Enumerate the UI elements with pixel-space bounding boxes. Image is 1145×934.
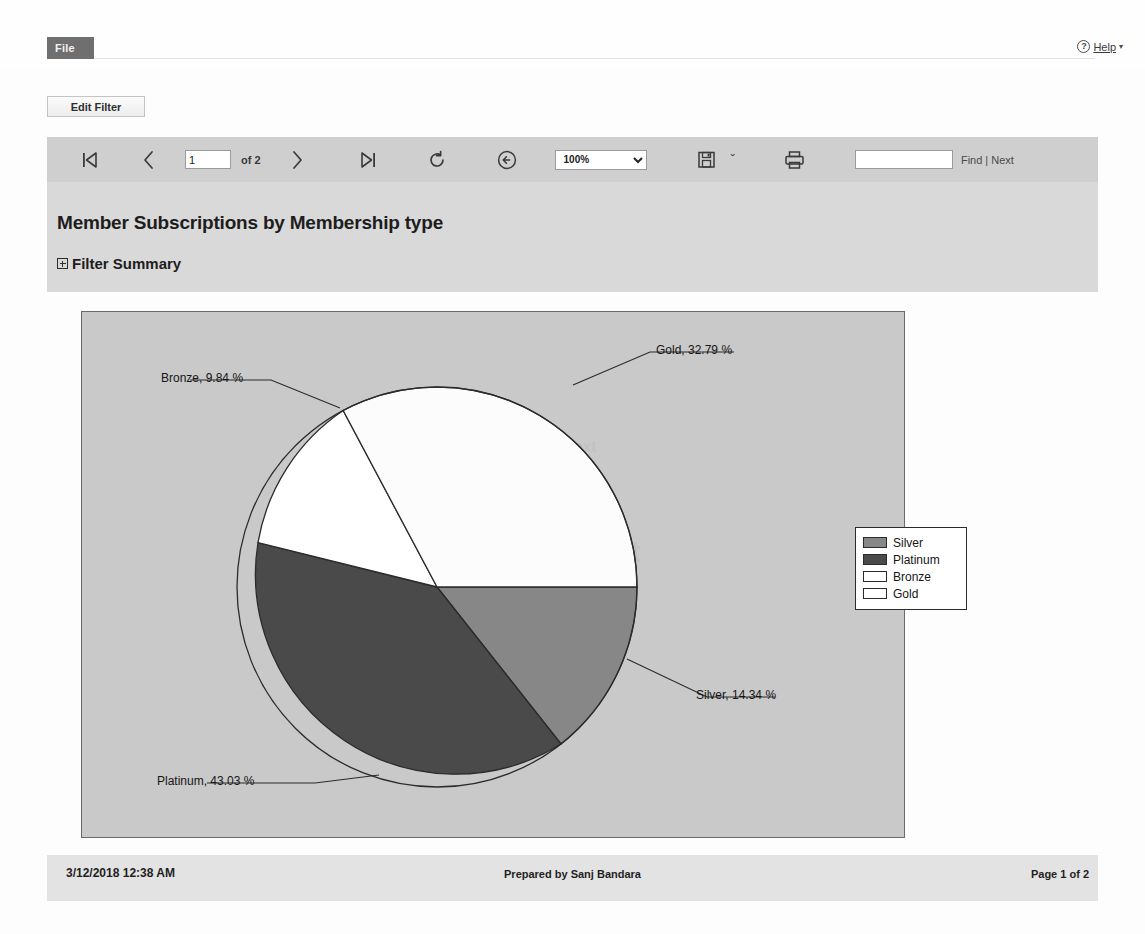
legend-item-silver: Silver [863, 534, 960, 551]
page-count-label: of 2 [241, 154, 261, 166]
legend-label-platinum: Platinum [893, 553, 940, 567]
first-page-icon[interactable] [69, 137, 113, 182]
back-parent-report-icon[interactable] [485, 137, 529, 182]
legend-swatch-bronze [863, 571, 887, 582]
filter-summary-label: Filter Summary [72, 255, 181, 272]
pie-chart-panel: this is sample report text subscription … [81, 311, 905, 838]
chevron-down-icon: ▾ [1119, 42, 1123, 51]
save-export-icon[interactable] [685, 137, 729, 182]
legend-label-bronze: Bronze [893, 570, 931, 584]
print-icon[interactable] [773, 137, 817, 182]
legend-swatch-gold [863, 588, 887, 599]
footer-page-indicator: Page 1 of 2 [1031, 868, 1089, 880]
find-next-links[interactable]: Find | Next [961, 154, 1014, 166]
legend-item-platinum: Platinum [863, 551, 960, 568]
page-title: Member Subscriptions by Membership type [57, 212, 443, 234]
report-viewer-page: File ? Help ▾ Edit Filter of 2 [0, 0, 1145, 934]
export-chevron-down-icon[interactable]: ˇ [731, 152, 735, 167]
file-tab[interactable]: File [47, 37, 94, 59]
question-circle-icon: ? [1077, 40, 1090, 53]
file-tab-label: File [55, 42, 75, 54]
ribbon-bar [0, 0, 1145, 70]
legend-swatch-platinum [863, 554, 887, 565]
zoom-select[interactable]: 100% [555, 150, 647, 170]
filter-summary-toggle[interactable]: Filter Summary [57, 255, 181, 272]
last-page-icon[interactable] [345, 137, 389, 182]
pie-chart: this is sample report text subscription … [82, 312, 904, 837]
page-number-input[interactable] [185, 150, 231, 169]
pie-label-platinum: Platinum, 43.03 % [157, 774, 254, 788]
previous-page-icon[interactable] [127, 137, 171, 182]
legend-item-gold: Gold [863, 585, 960, 602]
footer-prepared-by: Prepared by Sanj Bandara [0, 868, 1145, 880]
ribbon-divider [95, 58, 1095, 59]
legend-item-bronze: Bronze [863, 568, 960, 585]
legend-label-silver: Silver [893, 536, 923, 550]
next-page-icon[interactable] [275, 137, 319, 182]
pie-label-silver: Silver, 14.34 % [696, 688, 776, 702]
edit-filter-button[interactable]: Edit Filter [47, 96, 145, 117]
expand-icon[interactable] [57, 258, 68, 269]
legend-label-gold: Gold [893, 587, 918, 601]
pie-label-bronze: Bronze, 9.84 % [161, 371, 243, 385]
refresh-icon[interactable] [415, 137, 459, 182]
edit-filter-label: Edit Filter [71, 101, 122, 113]
find-input[interactable] [855, 150, 953, 169]
report-header-band [47, 182, 1098, 292]
help-menu[interactable]: ? Help ▾ [1077, 40, 1123, 53]
legend-swatch-silver [863, 537, 887, 548]
report-toolbar: of 2 [47, 137, 1098, 182]
help-label: Help [1093, 41, 1116, 53]
chart-legend: Silver Platinum Bronze Gold [855, 527, 967, 610]
pie-label-gold: Gold, 32.79 % [656, 343, 732, 357]
